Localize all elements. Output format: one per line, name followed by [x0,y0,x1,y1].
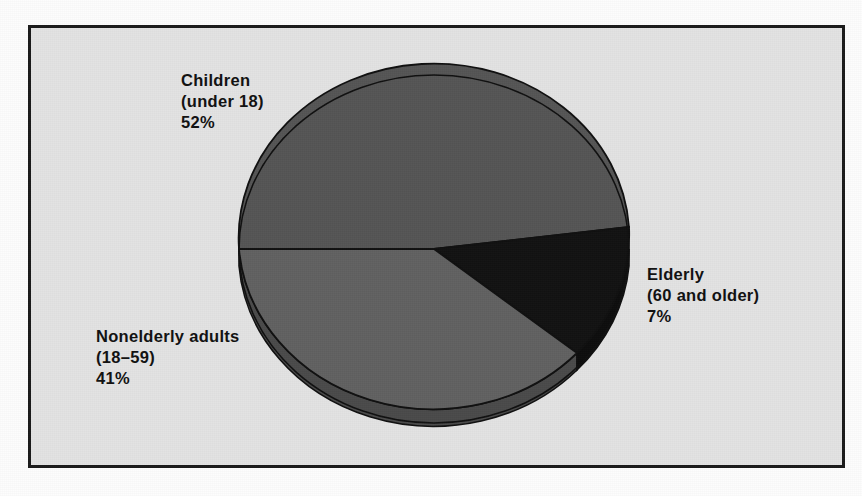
pie-label-nonelderly-line2: (18–59) [96,347,240,368]
pie-label-elderly: Elderly (60 and older) 7% [647,264,759,327]
pie-label-elderly-line2: (60 and older) [647,285,759,306]
pie-label-nonelderly-adults: Nonelderly adults (18–59) 41% [96,326,240,389]
pie-label-children: Children (under 18) 52% [181,70,264,133]
pie-label-elderly-line1: Elderly [647,264,759,285]
pie-chart-graphic [0,0,862,496]
pie-label-children-line2: (under 18) [181,91,264,112]
pie-chart-figure: Children (under 18) 52% Elderly (60 and … [0,0,862,496]
pie-label-elderly-value: 7% [647,306,759,327]
pie-label-nonelderly-line1: Nonelderly adults [96,326,240,347]
pie-label-children-line1: Children [181,70,264,91]
pie-label-children-value: 52% [181,112,264,133]
pie-label-nonelderly-value: 41% [96,368,240,389]
pie-slice-children[interactable] [239,64,629,249]
